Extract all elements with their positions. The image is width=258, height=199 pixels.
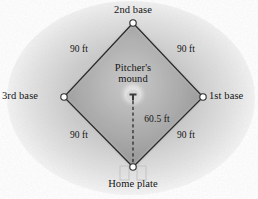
label-distance-first-to-home: 90 ft [177,130,195,140]
base-marker-first [200,94,206,100]
base-marker-second [130,20,136,26]
label-distance-home-to-third: 90 ft [70,130,88,140]
label-distance-third-to-second: 90 ft [70,44,88,54]
baseball-diamond-figure: 2nd base 3rd base 1st base Home plate Pi… [0,0,258,199]
label-distance-second-to-first: 90 ft [177,44,195,54]
pitchers-mound [119,82,147,110]
label-second-base: 2nd base [114,4,152,15]
label-pitchers-mound-line2: mound [115,73,152,84]
label-home-plate: Home plate [108,178,158,189]
base-marker-home [130,164,136,170]
label-third-base: 3rd base [2,90,38,101]
label-distance-mound-to-home: 60.5 ft [144,114,170,124]
label-pitchers-mound-line1: Pitcher's [115,62,152,73]
label-pitchers-mound: Pitcher's mound [115,62,152,85]
base-marker-third [61,94,67,100]
label-first-base: 1st base [209,90,243,101]
